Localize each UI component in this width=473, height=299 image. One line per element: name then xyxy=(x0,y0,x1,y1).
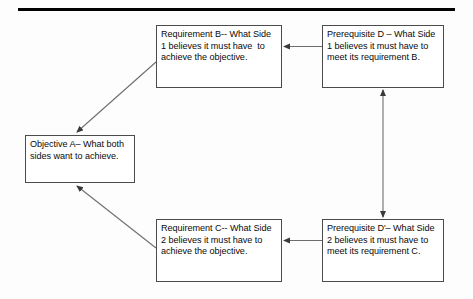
node-prerequisite-d[interactable]: Prerequisite D – What Side 1 believes it… xyxy=(322,25,444,88)
edge-requirement-b-to-objective-a xyxy=(77,62,156,132)
node-requirement-c[interactable]: Requirement C-- What Side 2 believes it … xyxy=(156,219,282,282)
node-requirement-b[interactable]: Requirement B-- What Side 1 believes it … xyxy=(156,25,282,88)
conflict-resolution-diagram: Requirement B-- What Side 1 believes it … xyxy=(0,0,473,299)
node-objective-a[interactable]: Objective A– What both sides want to ach… xyxy=(25,135,135,183)
edge-requirement-c-to-objective-a xyxy=(77,186,156,248)
node-prerequisite-d-prime[interactable]: Prerequisite D'– What Side 2 believes it… xyxy=(322,219,444,282)
